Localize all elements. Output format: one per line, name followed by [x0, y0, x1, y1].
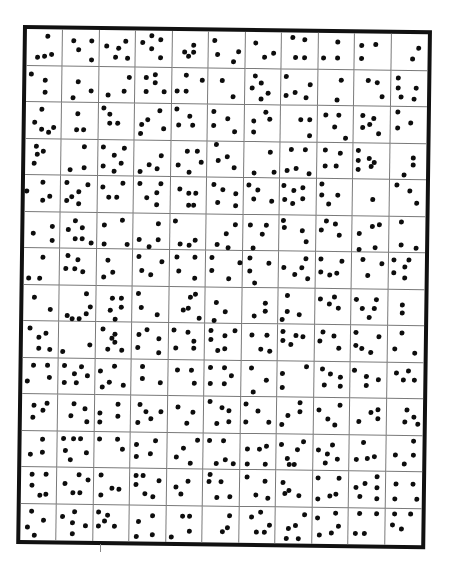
grid-cell	[241, 360, 278, 397]
dot	[284, 93, 289, 98]
dot	[186, 305, 191, 310]
dot	[144, 195, 149, 200]
dot	[84, 450, 89, 455]
dot	[253, 492, 258, 497]
dot	[335, 39, 340, 44]
dot	[284, 535, 289, 540]
dot	[84, 292, 89, 297]
dot	[88, 89, 93, 94]
grid-cell	[96, 285, 133, 322]
dot	[262, 54, 267, 59]
dot	[335, 55, 340, 60]
grid-cell	[203, 506, 240, 543]
dot	[263, 301, 268, 306]
dot	[325, 452, 330, 457]
dot	[322, 382, 327, 387]
dot	[107, 379, 112, 384]
dot	[44, 401, 49, 406]
dot	[293, 90, 298, 95]
dot	[402, 461, 407, 466]
dot	[254, 40, 259, 45]
dot	[364, 383, 369, 388]
grid-cell	[98, 103, 135, 140]
dot	[29, 508, 34, 513]
dot	[262, 461, 267, 466]
dot	[175, 368, 180, 373]
dot	[231, 461, 236, 466]
dot	[188, 460, 193, 465]
dot	[113, 54, 118, 59]
dot	[161, 126, 166, 131]
dot	[227, 408, 232, 413]
dot	[98, 419, 103, 424]
dot	[207, 438, 212, 443]
grid-cell	[391, 34, 428, 71]
dot	[335, 193, 340, 198]
dot	[263, 110, 268, 115]
dot	[372, 454, 377, 459]
grid-cell	[168, 323, 205, 360]
dot	[324, 112, 329, 117]
dot	[153, 72, 158, 77]
dot	[354, 485, 359, 490]
dot	[329, 531, 334, 536]
dot	[98, 492, 103, 497]
grid-cell	[167, 432, 204, 469]
dot	[376, 131, 381, 136]
dot	[237, 49, 242, 54]
dot	[115, 414, 120, 419]
dot	[285, 526, 290, 531]
dot	[227, 494, 232, 499]
dot	[353, 531, 358, 536]
dot	[73, 219, 78, 224]
dot	[307, 133, 312, 138]
grid-cell	[130, 505, 167, 542]
dot	[249, 515, 254, 520]
dot	[288, 342, 293, 347]
dot	[43, 472, 48, 477]
grid-cell	[26, 102, 63, 139]
dot	[247, 268, 252, 273]
dot	[271, 169, 276, 174]
grid-cell	[348, 508, 385, 545]
dot	[337, 346, 342, 351]
dot	[61, 436, 66, 441]
dot	[335, 97, 340, 102]
dot	[337, 151, 342, 156]
dot	[282, 491, 287, 496]
dot	[260, 232, 265, 237]
dot	[68, 457, 73, 462]
dot	[218, 480, 223, 485]
dot	[255, 188, 260, 193]
dot	[338, 78, 343, 83]
dot	[137, 332, 142, 337]
dot	[365, 273, 370, 278]
grid-cell	[313, 434, 350, 471]
dot	[174, 255, 179, 260]
dot	[46, 375, 51, 380]
dot	[391, 270, 396, 275]
dot	[74, 381, 79, 386]
grid-cell	[280, 142, 317, 179]
dot	[24, 188, 29, 193]
dot	[408, 512, 413, 517]
dot	[357, 231, 362, 236]
dot	[116, 487, 121, 492]
dot	[175, 107, 180, 112]
dot	[99, 473, 104, 478]
grid-cell	[352, 216, 389, 253]
grid-cell	[349, 435, 386, 472]
grid-cell	[276, 470, 313, 507]
dot	[330, 443, 335, 448]
grid-cell	[135, 67, 172, 104]
dot	[191, 346, 196, 351]
dot	[74, 127, 79, 132]
dot	[212, 38, 217, 43]
dot	[380, 94, 385, 99]
dot	[254, 530, 259, 535]
dot	[334, 271, 339, 276]
grid-cell	[316, 179, 353, 216]
dot	[143, 409, 148, 414]
dot	[285, 293, 290, 298]
dot	[101, 144, 106, 149]
